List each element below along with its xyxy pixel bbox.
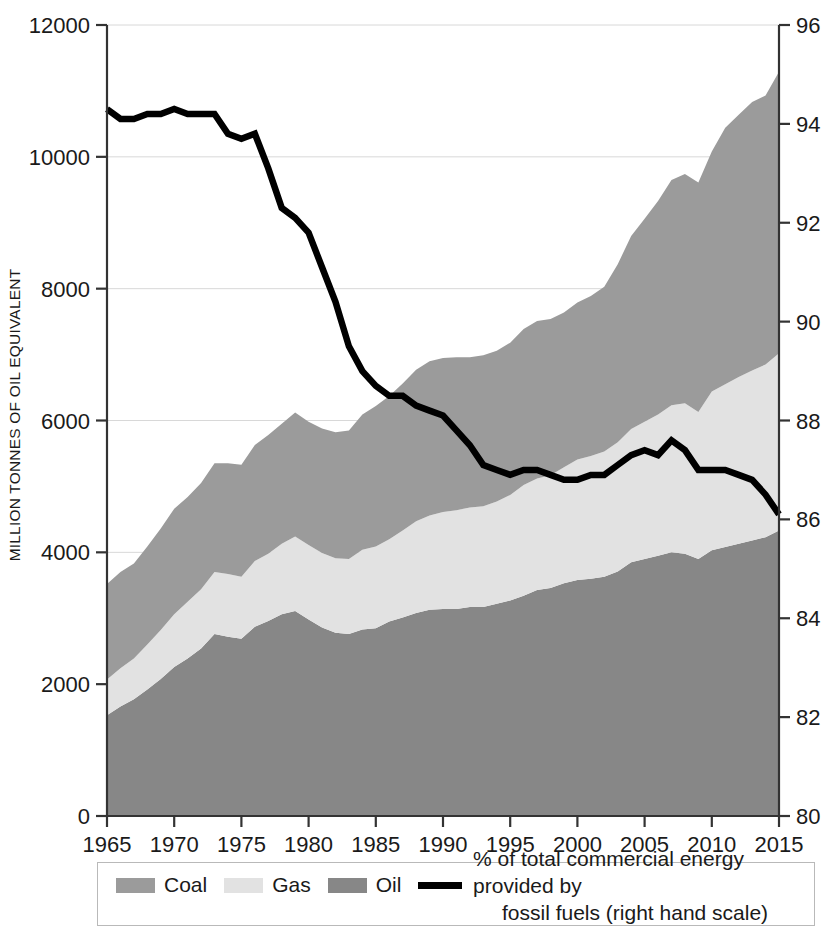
legend-label-oil: Oil [376,873,402,897]
legend-entry-percent-line: % of total commercial energy provided by… [418,872,797,898]
y-axis-right-tick-label: 96 [796,13,820,38]
chart-page: MILLION TONNES OF OIL EQUIVALENT 0200040… [0,0,828,934]
y-axis-right-tick-label: 92 [796,211,820,236]
y-axis-left-tick-label: 10000 [29,145,90,170]
legend-label-gas: Gas [272,873,311,897]
y-axis-left-tick-label: 12000 [29,13,90,38]
y-axis-right-tick-label: 80 [796,804,820,829]
oil-swatch [328,878,367,893]
chart-legend: Coal Gas Oil % of total commercial energ… [97,862,815,926]
y-axis-left-tick-label: 6000 [41,409,90,434]
energy-consumption-chart: 0200040006000800010000120008082848688909… [0,0,828,860]
y-axis-right-ticks: 808284868890929496 [779,13,820,829]
legend-entry-oil: Oil [328,872,402,898]
y-axis-right-tick-label: 94 [796,112,820,137]
x-axis-tick-label: 1970 [150,832,199,857]
line-swatch [418,882,462,889]
legend-label-percent-line-1: % of total commercial energy provided by [473,845,797,899]
y-axis-left-tick-label: 8000 [41,277,90,302]
legend-label-coal: Coal [164,873,207,897]
y-axis-right-tick-label: 90 [796,310,820,335]
y-axis-left-ticks: 020004000600080001000012000 [29,13,107,829]
coal-swatch [116,878,155,893]
legend-entry-gas: Gas [224,872,311,898]
x-axis-tick-label: 1990 [419,832,468,857]
y-axis-right-tick-label: 86 [796,507,820,532]
x-axis-tick-label: 1965 [83,832,132,857]
y-axis-right-tick-label: 82 [796,705,820,730]
x-axis-tick-label: 1985 [351,832,400,857]
y-axis-right-tick-label: 84 [796,606,820,631]
legend-label-percent-line: % of total commercial energy provided by… [473,845,797,926]
y-axis-left-tick-label: 0 [78,804,90,829]
x-axis-tick-label: 1980 [284,832,333,857]
legend-label-percent-line-2: fossil fuels (right hand scale) [473,899,797,926]
y-axis-left-tick-label: 4000 [41,540,90,565]
y-axis-left-tick-label: 2000 [41,672,90,697]
gas-swatch [224,878,263,893]
legend-entry-coal: Coal [116,872,207,898]
x-axis-tick-label: 1975 [217,832,266,857]
y-axis-right-tick-label: 88 [796,409,820,434]
